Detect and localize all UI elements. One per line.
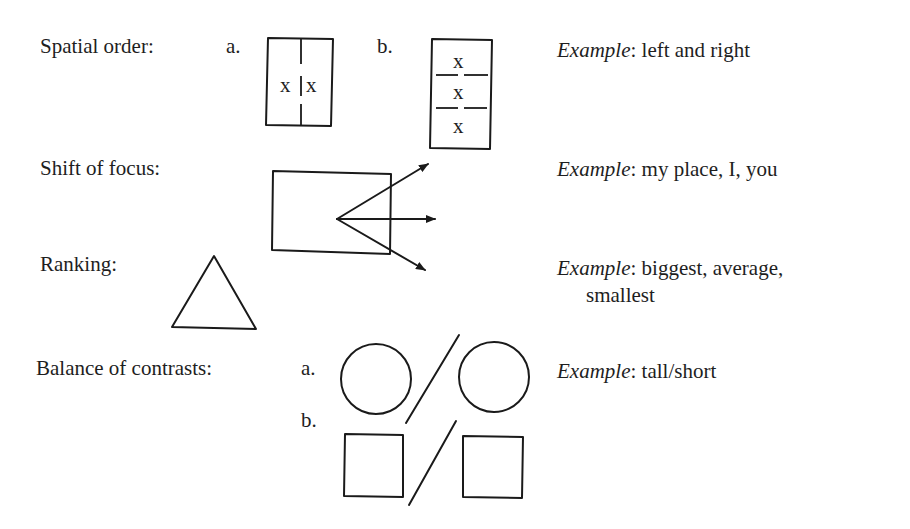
- mark-x: x: [280, 73, 291, 97]
- mark-x: x: [306, 73, 317, 97]
- diagram-figures: x x x x x: [0, 0, 910, 529]
- spatial-order-a-figure: x x: [266, 38, 333, 126]
- box: [272, 171, 391, 254]
- box: [266, 38, 333, 126]
- slash: [409, 421, 456, 505]
- spatial-order-b-figure: x x x: [430, 39, 492, 149]
- balance-of-contrasts-a-figure: [341, 335, 529, 423]
- mark-x: x: [453, 80, 464, 104]
- triangle: [172, 256, 256, 329]
- shift-of-focus-figure: [272, 164, 435, 270]
- mark-x: x: [453, 114, 464, 138]
- square-right: [463, 436, 523, 498]
- circle-left: [341, 344, 411, 414]
- circle-right: [459, 342, 529, 412]
- ranking-figure: [172, 256, 256, 329]
- arrow-down-right: [337, 219, 425, 270]
- slash: [406, 335, 459, 423]
- square-left: [344, 434, 403, 497]
- mark-x: x: [453, 49, 464, 73]
- balance-of-contrasts-b-figure: [344, 421, 523, 505]
